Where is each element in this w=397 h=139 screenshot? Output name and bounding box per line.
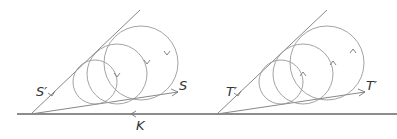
circle-large [104, 26, 178, 100]
circle-large-arrow-right [350, 49, 356, 53]
circle-large-right [290, 26, 364, 100]
circle-large-arrow [164, 51, 170, 55]
label-s: S [179, 78, 187, 93]
label-t-prime-upper: T′ [226, 84, 237, 99]
right-panel: T′ T′ [217, 10, 377, 114]
diagram-canvas: S′ S K T′ T′ [0, 0, 397, 139]
circle-medium [87, 44, 147, 104]
label-s-prime: S′ [36, 84, 47, 99]
circle-medium-right [273, 44, 333, 104]
lower-ray-t-prime [217, 92, 365, 114]
circle-small-right [259, 60, 303, 104]
lower-ray-s [31, 92, 178, 114]
circle-small [73, 60, 117, 104]
label-t-prime-lower: T′ [366, 78, 377, 93]
label-k: K [136, 118, 146, 133]
circle-small-arrow [114, 73, 120, 77]
